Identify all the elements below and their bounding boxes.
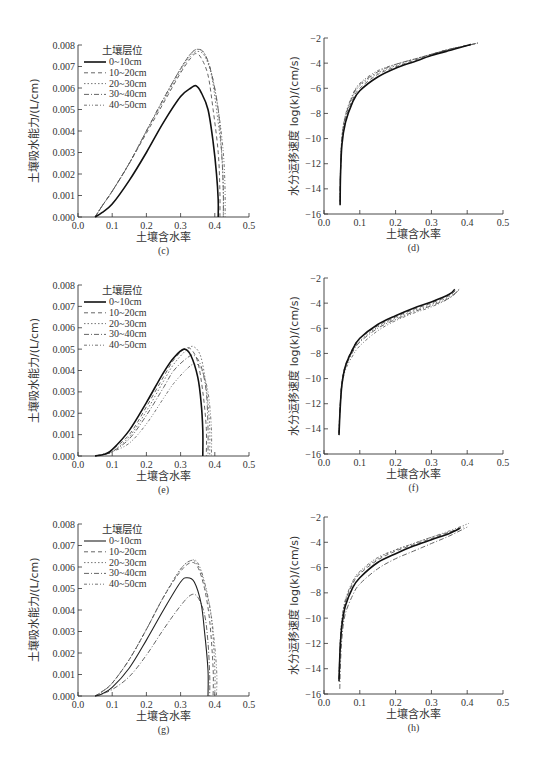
y-tick-label: 0.006	[53, 322, 76, 333]
x-tick-label: 0.2	[140, 699, 153, 710]
y-tick-label: −4	[310, 58, 321, 69]
x-tick-label: 0.2	[389, 457, 402, 468]
series-line-40~50cm	[95, 364, 212, 456]
legend-title: 土壤层位	[102, 44, 143, 56]
x-tick-label: 0.4	[209, 459, 222, 470]
x-tick-label: 0.4	[461, 457, 474, 468]
x-tick-label: 0.4	[461, 697, 474, 708]
chart-panel-e: 0.00.10.20.30.40.50.0000.0010.0020.0030.…	[27, 280, 255, 497]
legend-item-label: 10~20cm	[109, 546, 147, 557]
x-axis-label: 土壤含水率	[136, 709, 191, 723]
legend: 土壤层位0~10cm10~20cm20~30cm30~40cm40~50cm	[84, 44, 147, 110]
y-tick-label: −12	[305, 158, 321, 169]
x-tick-label: 0.4	[209, 699, 222, 710]
axis-lines	[78, 285, 249, 456]
y-tick-label: −10	[305, 133, 321, 144]
axis-lines	[324, 278, 503, 454]
x-tick-label: 0.3	[425, 697, 438, 708]
y-tick-label: 0.004	[53, 605, 76, 616]
y-tick-label: 0.001	[53, 190, 76, 201]
figure-canvas: 0.00.10.20.30.40.50.0000.0010.0020.0030.…	[0, 0, 537, 772]
x-tick-label: 0.3	[174, 220, 187, 231]
x-tick-label: 0.3	[425, 217, 438, 228]
x-tick-label: 0.1	[106, 220, 119, 231]
series-line-10~20cm	[340, 44, 473, 204]
series-line-40~50cm	[339, 288, 460, 433]
axis-lines	[324, 38, 503, 214]
axis-lines	[78, 45, 249, 217]
chart-panel-g: 0.00.10.20.30.40.50.0000.0010.0020.0030.…	[27, 519, 255, 737]
legend-title: 土壤层位	[102, 284, 143, 296]
x-tick-label: 0.1	[106, 699, 119, 710]
y-tick-label: −2	[310, 512, 321, 523]
x-tick-label: 0.2	[389, 217, 402, 228]
chart-panel-d: 0.00.10.20.30.40.5−16−14−12−10−8−6−4−2土壤…	[287, 33, 509, 255]
y-tick-label: −16	[305, 209, 321, 220]
panel-caption: (g)	[158, 724, 170, 736]
x-axis-label: 土壤含水率	[136, 230, 191, 244]
x-tick-label: 0.5	[243, 459, 256, 470]
series-line-30~40cm	[339, 291, 458, 433]
y-tick-label: 0.002	[53, 169, 76, 180]
x-tick-label: 0.5	[243, 699, 256, 710]
series-line-40~50cm	[340, 43, 478, 201]
y-tick-label: 0.004	[53, 365, 76, 376]
y-axis-label: 土壤吸水能力/(L/cm)	[27, 318, 41, 423]
y-tick-label: −6	[310, 83, 321, 94]
series-line-10~20cm	[339, 289, 457, 434]
y-tick-label: 0.000	[53, 212, 76, 223]
y-tick-label: 0.007	[53, 61, 76, 72]
legend-item-label: 0~10cm	[109, 296, 142, 307]
series-line-0~10cm	[339, 289, 455, 435]
y-tick-label: 0.006	[53, 83, 76, 94]
panel-caption: (d)	[408, 242, 420, 254]
y-tick-label: −8	[310, 348, 321, 359]
legend-item-label: 30~40cm	[109, 567, 147, 578]
y-tick-label: −12	[305, 398, 321, 409]
y-axis-label: 土壤吸水能力/(L/cm)	[27, 79, 41, 184]
x-axis-label: 土壤含水率	[136, 469, 191, 483]
series-line-0~10cm	[339, 528, 460, 681]
series-line-0~10cm	[340, 44, 471, 205]
series-line-20~30cm	[339, 289, 460, 432]
chart-panel-h: 0.00.10.20.30.40.5−16−14−12−10−8−6−4−2土壤…	[287, 512, 509, 735]
y-tick-label: 0.003	[53, 147, 76, 158]
x-tick-label: 0.5	[497, 697, 510, 708]
x-axis-label: 土壤含水率	[386, 707, 441, 721]
x-axis-label: 土壤含水率	[386, 227, 441, 241]
y-tick-label: −12	[305, 638, 321, 649]
y-tick-label: 0.001	[53, 669, 76, 680]
panel-caption: (c)	[158, 245, 169, 257]
y-axis-label: 水分运移速度 log(k)/(cm/s)	[287, 296, 301, 436]
legend-item-label: 30~40cm	[109, 88, 147, 99]
x-tick-label: 0.2	[140, 220, 153, 231]
series-line-20~30cm	[95, 346, 210, 456]
series-line-0~10cm	[95, 578, 208, 696]
legend-item-label: 40~50cm	[109, 99, 147, 110]
y-tick-label: −4	[310, 537, 321, 548]
x-tick-label: 0.1	[354, 457, 367, 468]
y-tick-label: 0.007	[53, 540, 76, 551]
x-tick-label: 0.2	[389, 697, 402, 708]
legend-item-label: 40~50cm	[109, 578, 147, 589]
x-tick-label: 0.2	[140, 459, 153, 470]
legend-item-label: 10~20cm	[109, 307, 147, 318]
series-line-20~30cm	[340, 43, 478, 201]
panel-caption: (e)	[158, 484, 169, 496]
x-tick-label: 0.1	[354, 697, 367, 708]
y-tick-label: −16	[305, 449, 321, 460]
series-line-10~20cm	[339, 527, 462, 679]
y-tick-label: 0.008	[53, 40, 76, 51]
chart-panel-c: 0.00.10.20.30.40.50.0000.0010.0020.0030.…	[27, 40, 255, 258]
legend-item-label: 0~10cm	[109, 56, 142, 67]
panel-caption: (h)	[408, 722, 420, 734]
legend-item-label: 0~10cm	[109, 535, 142, 546]
y-tick-label: 0.002	[53, 648, 76, 659]
y-tick-label: −14	[305, 183, 321, 194]
legend-item-label: 20~30cm	[109, 557, 147, 568]
y-tick-label: 0.005	[53, 344, 76, 355]
legend-item-label: 40~50cm	[109, 339, 147, 350]
x-tick-label: 0.5	[497, 217, 510, 228]
y-tick-label: 0.005	[53, 583, 76, 594]
x-axis-label: 土壤含水率	[386, 467, 441, 481]
